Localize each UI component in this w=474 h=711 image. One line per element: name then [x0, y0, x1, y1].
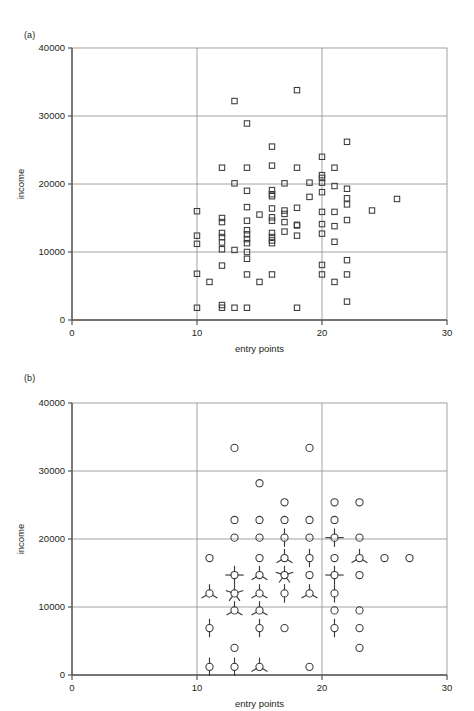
x-axis-title: entry points: [235, 343, 284, 354]
y-tick-label: 20000: [39, 178, 65, 189]
data-point-square: [219, 165, 224, 170]
data-point-square: [369, 208, 374, 213]
data-point-sunflower: [306, 444, 313, 457]
data-point-square: [257, 212, 262, 217]
data-point-square: [244, 204, 249, 209]
data-point-sunflower: [225, 566, 243, 584]
data-point-sunflower: [231, 644, 238, 657]
x-tick-label: 0: [69, 682, 74, 693]
data-point-sunflower: [231, 658, 238, 676]
y-tick-label: 40000: [39, 42, 65, 53]
data-point-sunflower: [356, 571, 363, 584]
data-point-sunflower: [325, 566, 343, 584]
x-tick-label: 10: [192, 682, 203, 693]
data-point-square: [344, 202, 349, 207]
data-point-square: [219, 240, 224, 245]
data-point-square: [282, 208, 287, 213]
y-tick-label: 10000: [39, 601, 65, 612]
data-point-sunflower: [406, 554, 413, 567]
y-tick-label: 0: [60, 669, 65, 680]
data-point-sunflower: [227, 601, 243, 615]
data-point-sunflower: [206, 619, 213, 637]
data-point-square: [282, 211, 287, 216]
data-point-sunflower: [231, 516, 238, 529]
data-point-square: [344, 139, 349, 144]
data-point-sunflower: [306, 549, 313, 567]
data-point-sunflower: [256, 534, 263, 547]
x-tick-label: 0: [69, 327, 74, 338]
data-point-sunflower: [331, 584, 338, 602]
x-tick-label: 30: [442, 682, 453, 693]
panel-a-plot: 0100002000030000400000102030entry points…: [0, 0, 474, 356]
data-point-square: [219, 247, 224, 252]
data-point-sunflower: [352, 549, 368, 563]
data-point-square: [244, 256, 249, 261]
x-axis-title: entry points: [235, 698, 284, 709]
data-point-sunflower: [231, 444, 238, 457]
data-point-sunflower: [252, 584, 268, 598]
y-axis-title: income: [15, 169, 26, 200]
data-point-square: [244, 305, 249, 310]
x-tick-label: 20: [317, 327, 328, 338]
data-point-sunflower: [226, 584, 243, 601]
y-tick-label: 30000: [39, 465, 65, 476]
data-point-sunflower: [306, 516, 313, 529]
data-point-square: [294, 165, 299, 170]
data-point-sunflower: [206, 658, 213, 676]
data-point-square: [344, 272, 349, 277]
x-tick-label: 30: [442, 327, 453, 338]
data-point-sunflower: [281, 499, 288, 512]
data-point-square: [269, 144, 274, 149]
data-point-sunflower: [331, 499, 338, 512]
data-point-square: [269, 206, 274, 211]
data-point-sunflower: [256, 619, 263, 637]
panel-a: (a) 0100002000030000400000102030entry po…: [0, 0, 474, 356]
data-point-sunflower: [306, 571, 313, 584]
data-point-square: [282, 219, 287, 224]
data-point-square: [282, 229, 287, 234]
data-point-sunflower: [281, 528, 288, 546]
data-point-square: [332, 223, 337, 228]
data-point-sunflower: [356, 534, 363, 547]
data-point-sunflower: [256, 480, 263, 493]
data-point-sunflower: [356, 499, 363, 512]
data-point-sunflower: [252, 566, 268, 580]
data-point-square: [244, 218, 249, 223]
data-point-sunflower: [276, 566, 293, 583]
data-point-square: [282, 181, 287, 186]
data-point-square: [269, 215, 274, 220]
data-point-sunflower: [202, 584, 218, 598]
data-point-square: [344, 186, 349, 191]
data-point-sunflower: [281, 516, 288, 529]
data-point-sunflower: [356, 607, 363, 620]
data-point-square: [257, 279, 262, 284]
x-tick-label: 10: [192, 327, 203, 338]
data-point-square: [244, 188, 249, 193]
data-point-sunflower: [277, 549, 293, 563]
data-point-square: [232, 98, 237, 103]
data-point-sunflower: [356, 624, 363, 637]
data-point-sunflower: [381, 554, 388, 567]
data-point-square: [344, 196, 349, 201]
y-axis-title: income: [15, 524, 26, 555]
data-point-sunflower: [252, 601, 268, 615]
figure-container: (a) 0100002000030000400000102030entry po…: [0, 0, 474, 711]
data-point-sunflower: [231, 534, 238, 547]
x-tick-label: 20: [317, 682, 328, 693]
data-point-sunflower: [356, 644, 363, 657]
data-point-sunflower: [331, 607, 338, 620]
data-point-sunflower: [306, 534, 313, 547]
data-point-square: [332, 279, 337, 284]
data-point-sunflower: [302, 584, 318, 598]
data-point-square: [307, 194, 312, 199]
data-point-square: [269, 272, 274, 277]
data-point-square: [207, 279, 212, 284]
panel-b-plot: 0100002000030000400000102030entry points…: [0, 355, 474, 711]
data-point-square: [219, 263, 224, 268]
data-point-sunflower: [306, 663, 313, 676]
data-point-square: [269, 218, 274, 223]
data-point-square: [344, 299, 349, 304]
y-tick-label: 30000: [39, 110, 65, 121]
data-point-sunflower: [331, 516, 338, 529]
data-point-square: [394, 196, 399, 201]
